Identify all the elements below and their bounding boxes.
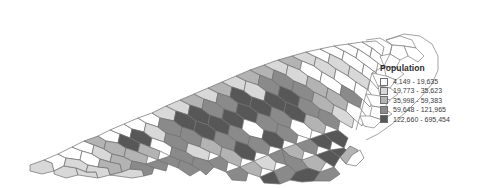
legend-label: 59,648 - 121,965 xyxy=(393,105,446,114)
legend-item: 35,998 - 59,383 xyxy=(378,96,478,105)
legend-swatch xyxy=(380,106,388,114)
legend-swatch xyxy=(380,115,388,123)
legend-item: 19,773 - 35,623 xyxy=(378,86,478,95)
legend-title: Population xyxy=(380,63,478,73)
legend: Population 4,149 - 19,635 19,773 - 35,62… xyxy=(378,63,478,124)
legend-swatch xyxy=(380,87,388,95)
legend-item: 122,660 - 695,454 xyxy=(378,115,478,124)
legend-label: 19,773 - 35,623 xyxy=(393,86,442,95)
county-group-west xyxy=(30,113,180,178)
legend-item: 59,648 - 121,965 xyxy=(378,105,478,114)
legend-swatch xyxy=(380,78,388,86)
legend-item: 4,149 - 19,635 xyxy=(378,77,478,86)
legend-label: 35,998 - 59,383 xyxy=(393,96,442,105)
legend-label: 4,149 - 19,635 xyxy=(393,77,438,86)
legend-label: 122,660 - 695,454 xyxy=(393,115,450,124)
population-choropleth-map: Population 4,149 - 19,635 19,773 - 35,62… xyxy=(0,0,480,188)
legend-swatch xyxy=(380,96,388,104)
